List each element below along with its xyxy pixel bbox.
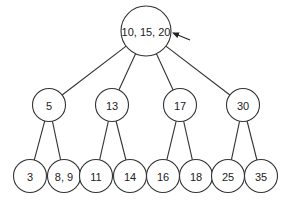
edge-root-n13 xyxy=(119,54,136,90)
edge-n17-n16 xyxy=(167,121,176,160)
edge-root-n30 xyxy=(166,46,230,95)
node-label: 10, 15, 20 xyxy=(122,26,171,38)
node-label: 13 xyxy=(106,100,118,112)
tree-node-root: 10, 15, 20 xyxy=(121,6,171,56)
tree-node-n30: 30 xyxy=(227,89,260,122)
node-label: 8, 9 xyxy=(55,171,73,183)
tree-edges xyxy=(34,46,257,160)
tree-node-n18: 18 xyxy=(180,160,213,193)
edge-n5-n3 xyxy=(34,121,44,160)
node-label: 18 xyxy=(190,171,202,183)
node-label: 5 xyxy=(46,100,52,112)
node-label: 3 xyxy=(27,171,33,183)
edge-n17-n18 xyxy=(184,121,193,160)
edge-n5-n89 xyxy=(52,121,60,160)
tree-node-n16: 16 xyxy=(147,160,180,193)
tree-node-n89: 8, 9 xyxy=(48,160,81,193)
node-label: 25 xyxy=(222,171,234,183)
edge-n30-n25 xyxy=(231,121,239,160)
tree-node-n5: 5 xyxy=(33,89,66,122)
node-label: 16 xyxy=(157,171,169,183)
tree-node-n17: 17 xyxy=(164,89,197,122)
tree-node-n3: 3 xyxy=(14,160,47,193)
pointer-arrow-icon xyxy=(173,33,190,40)
node-label: 35 xyxy=(255,171,267,183)
node-label: 14 xyxy=(124,171,136,183)
node-label: 17 xyxy=(174,100,186,112)
tree-diagram: 10, 15, 20513173038, 9111416182535 xyxy=(0,0,294,206)
node-label: 30 xyxy=(237,100,249,112)
tree-nodes: 10, 15, 20513173038, 9111416182535 xyxy=(14,6,278,193)
tree-node-n35: 35 xyxy=(245,160,278,193)
tree-node-n13: 13 xyxy=(96,89,129,122)
tree-node-n11: 11 xyxy=(80,160,113,193)
tree-node-n25: 25 xyxy=(212,160,245,193)
edge-root-n5 xyxy=(62,46,126,95)
edge-root-n17 xyxy=(156,54,173,90)
edge-n13-n11 xyxy=(100,121,109,160)
node-label: 11 xyxy=(90,171,101,183)
edge-n13-n14 xyxy=(116,121,126,160)
edge-n30-n35 xyxy=(247,121,257,160)
tree-node-n14: 14 xyxy=(114,160,147,193)
